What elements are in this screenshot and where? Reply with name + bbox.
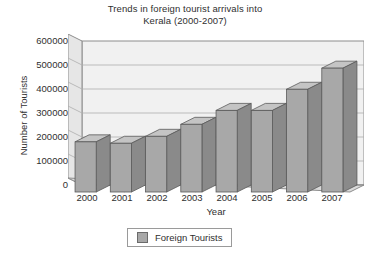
bar-2005 [251,103,286,192]
bar-2007 [322,61,357,192]
y-tick-label: 600000 [22,36,68,46]
bar-front-face [287,89,308,192]
y-tick-label: 500000 [22,60,68,70]
bar-2001 [110,136,145,192]
chart-title-line-1: Trends in foreign tourist arrivals into [0,3,370,15]
chart-title-line-2: Kerala (2000-2007) [0,15,370,27]
bar-side-face [272,103,286,192]
bar-front-face [216,110,237,192]
x-tick-label: 2001 [104,192,140,203]
bar-2000 [75,135,110,192]
x-axis-title: Year [68,206,364,217]
legend-swatch-icon [137,232,148,243]
bar-chart: Trends in foreign tourist arrivals into … [0,0,370,257]
legend-label: Foreign Tourists [155,232,222,243]
x-tick-label: 2000 [69,192,105,203]
bar-side-face [202,117,216,192]
y-tick-label: 400000 [22,84,68,94]
plot-area [68,34,364,192]
bar-front-face [322,68,343,192]
x-tick-label: 2002 [139,192,175,203]
plot-svg [68,34,364,202]
bar-side-face [96,135,110,192]
chart-title: Trends in foreign tourist arrivals into … [0,3,370,27]
x-tick-label: 2005 [244,192,280,203]
y-tick-label: 100000 [22,156,68,166]
y-tick-label: 300000 [22,108,68,118]
bar-side-face [167,129,181,192]
bar-front-face [146,136,167,192]
bar-front-face [181,124,202,192]
x-tick-label: 2006 [279,192,315,203]
bar-side-face [131,136,145,192]
bar-side-face [308,82,322,192]
x-axis-tick-labels: 2000 2001 2002 2003 2004 2005 2006 2007 [68,192,364,206]
bar-2002 [146,129,181,192]
y-tick-label: 200000 [22,132,68,142]
y-tick-label: 0 [22,180,68,190]
bar-2004 [216,103,251,192]
bar-2006 [287,82,322,192]
bar-2003 [181,117,216,192]
x-tick-label: 2004 [209,192,245,203]
bar-front-face [110,143,131,192]
x-tick-label: 2007 [314,192,350,203]
bar-front-face [251,110,272,192]
bar-side-face [343,61,357,192]
y-axis-tick-labels: 600000 500000 400000 300000 200000 10000… [22,34,68,192]
bar-front-face [75,142,96,192]
chart-legend: Foreign Tourists [127,228,232,247]
bar-side-face [237,103,251,192]
x-tick-label: 2003 [174,192,210,203]
